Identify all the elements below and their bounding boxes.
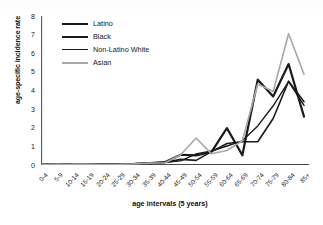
legend-item-black: Black <box>62 30 187 43</box>
y-tick-label: 8 <box>23 13 35 20</box>
x-axis-title: age intervals (5 years) <box>40 199 300 208</box>
legend-item-non-latino-white: Non-Latino White <box>62 43 187 56</box>
y-tick-label: 1 <box>23 143 35 150</box>
chart-legend: LatinoBlackNon-Latino WhiteAsian <box>62 17 187 69</box>
legend-line-swatch <box>62 62 88 64</box>
legend-line-swatch <box>62 49 88 50</box>
y-tick-label: 0 <box>23 162 35 169</box>
y-tick-label: 3 <box>23 106 35 113</box>
y-tick-label: 4 <box>23 87 35 94</box>
y-tick-label: 6 <box>23 50 35 57</box>
top-margin <box>0 0 323 9</box>
legend-item-label: Latino <box>93 20 113 27</box>
series-line-non-latino-white <box>42 82 304 165</box>
y-tick-label: 2 <box>23 124 35 131</box>
series-line-black <box>42 64 304 165</box>
legend-item-latino: Latino <box>62 17 187 30</box>
legend-item-label: Black <box>93 33 111 40</box>
legend-item-label: Asian <box>93 59 111 66</box>
legend-item-asian: Asian <box>62 56 187 69</box>
y-tick-label: 5 <box>23 68 35 75</box>
series-line-latino <box>42 81 304 164</box>
y-axis-title: age-specific incidence rate <box>14 0 22 120</box>
y-tick-label: 7 <box>23 31 35 38</box>
legend-line-swatch <box>62 36 88 38</box>
legend-line-swatch <box>62 23 88 25</box>
age-specific-incidence-line-chart: age-specific incidence rate 012345678 0-… <box>0 0 323 225</box>
legend-item-label: Non-Latino White <box>93 46 149 53</box>
